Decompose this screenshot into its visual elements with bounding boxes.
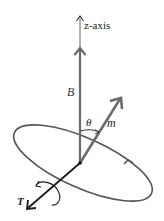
- angle-label-theta: θ: [86, 116, 92, 128]
- moment-label-m: m: [107, 116, 116, 130]
- moment-vector-m: [80, 98, 122, 163]
- torque-label-t: T: [17, 195, 25, 207]
- field-vector-b: [75, 48, 86, 163]
- precession-diagram: z-axis B θ m T: [0, 0, 164, 221]
- z-axis-label: z-axis: [84, 19, 110, 31]
- field-label-b: B: [67, 85, 75, 99]
